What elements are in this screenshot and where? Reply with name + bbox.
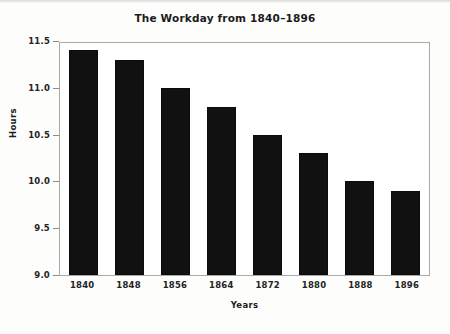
x-axis-ticks: 18401848185618641872188018881896 [59, 280, 430, 290]
y-tick-label: 11.0 [28, 83, 50, 93]
bar-1896 [391, 191, 420, 275]
x-tick-label: 1888 [340, 280, 380, 290]
x-tick-label: 1872 [248, 280, 288, 290]
x-tick-label: 1896 [387, 280, 427, 290]
plot-area [59, 42, 430, 276]
x-tick-label: 1848 [109, 280, 149, 290]
chart-title: The Workday from 1840–1896 [0, 12, 450, 24]
y-tick-label: 9.0 [34, 270, 50, 280]
x-tick-label: 1880 [294, 280, 334, 290]
bar-1848 [115, 60, 144, 275]
y-tick-label: 10.0 [28, 176, 50, 186]
bar-1888 [345, 181, 374, 275]
bar-1864 [207, 107, 236, 275]
y-tick-label: 10.5 [28, 130, 50, 140]
scan-edge [0, 0, 450, 3]
x-axis-label: Years [59, 300, 430, 310]
bar-1840 [69, 50, 98, 275]
x-tick-label: 1864 [201, 280, 241, 290]
bar-1856 [161, 88, 190, 275]
chart-figure: The Workday from 1840–1896 Hours 9.09.51… [0, 0, 450, 334]
y-axis-ticks: 9.09.510.010.511.011.5 [0, 0, 59, 278]
y-tick-label: 9.5 [34, 223, 50, 233]
x-tick-label: 1856 [155, 280, 195, 290]
bar-1880 [299, 153, 328, 275]
x-tick-label: 1840 [62, 280, 102, 290]
y-tick-label: 11.5 [28, 36, 50, 46]
bars-layer [60, 43, 429, 275]
bar-1872 [253, 135, 282, 275]
